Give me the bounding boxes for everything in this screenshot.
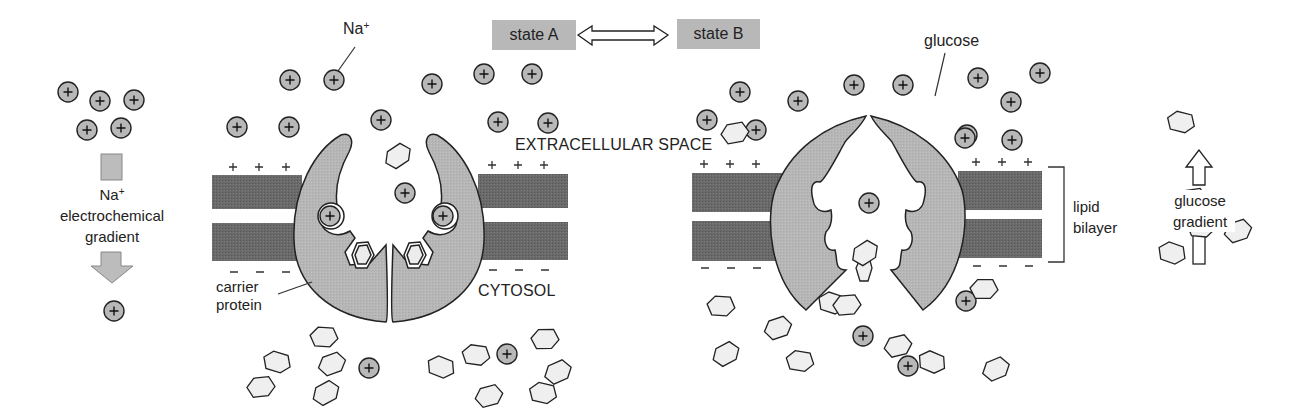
glucose-molecule-icon [882,334,913,359]
state-b-label: state B [694,25,744,42]
glucose-molecule-icon [260,348,293,377]
state-b-box: state B [677,19,760,49]
sodium-ion-icon [898,356,918,376]
sodium-ion-icon [77,120,97,140]
sodium-ion-icon [320,206,340,226]
carrier-left-half [770,116,866,310]
lipid-bilayer-bracket [1048,167,1064,262]
sodium-ion-icon [371,110,391,130]
sodium-ion-icon [730,82,750,102]
glucose-molecule-icon [709,339,743,369]
glucose-molecule-icon [247,377,276,398]
sodium-ion-icon [697,110,717,130]
sodium-ion-icon [1001,92,1021,112]
na-text: Na [343,20,363,37]
sodium-ion-icon [90,91,110,111]
sodium-ion-icon [538,113,558,133]
na-superscript: + [363,20,369,31]
sodium-ion-icon [844,75,864,95]
sodium-ion-icon [433,206,453,226]
cytosol-label: CYTOSOL [478,282,556,300]
glucose-molecule-icon [381,140,415,171]
sodium-ion-icon [497,344,517,364]
glucose-molecule-icon [706,294,737,318]
sodium-ion-icon [227,117,247,137]
sodium-ion-icon [395,183,415,203]
sodium-ion-icon [488,112,508,132]
glucose-gradient-label: glucose gradient [1165,190,1235,232]
sodium-ion-icon [280,70,300,90]
sodium-ion-icon [124,90,144,110]
state-a-label: state A [510,26,559,43]
glucose-molecule-icon [530,328,559,349]
glucose-molecule-icon [969,278,998,300]
na-label: Na+ [343,20,369,38]
glucose-molecule-icon [1155,238,1189,267]
sodium-ion-icon [1002,130,1022,150]
glucose-molecule-icon [541,358,574,386]
glucose-molecule-icon [473,384,504,409]
sodium-ion-icon [955,128,975,148]
carrier-left-half [294,134,388,322]
sodium-ion-icon [104,301,124,321]
lipid-bilayer-label: lipid bilayer [1073,196,1117,238]
glucose-molecule-icon [1165,108,1198,136]
sodium-ion-icon [1030,63,1050,83]
carrier-protein-label: carrier protein [216,278,262,314]
sodium-ion-icon [968,68,988,88]
sodium-ion-icon [788,91,808,111]
sodium-ion-icon [58,82,78,102]
sodium-ion-icon [853,326,873,346]
glucose-molecule-icon [784,348,816,374]
extracellular-space-label: EXTRACELLULAR SPACE [515,136,712,154]
sodium-ion-icon [746,120,766,140]
glucose-label: glucose [924,32,979,50]
sodium-ion-icon [522,64,542,84]
glucose-molecule-icon [424,352,458,382]
glucose-molecule-icon [915,347,949,378]
glucose-molecule-icon [848,237,882,268]
glucose-molecule-icon [309,325,339,348]
sodium-ion-icon [422,74,442,94]
glucose-molecule-icon [309,378,343,408]
na-electrochemical-gradient-label: Na+ electrochemical gradient [44,184,180,247]
sodium-ion-icon [893,75,913,95]
state-a-box: state A [492,20,576,50]
glucose-molecule-icon [762,315,794,342]
sodium-ion-icon [279,117,299,137]
sodium-ion-icon [111,118,131,138]
sodium-ion-icon [859,193,879,213]
lipid-bilayer-state-a [212,174,568,261]
glucose-molecule-icon [316,351,348,378]
glucose-molecule-icon [980,355,1013,383]
glucose-molecule-icon [720,122,750,145]
sodium-ion-icon [359,358,379,378]
carrier-right-half [871,116,965,310]
sodium-ion-icon [474,64,494,84]
state-transition-arrow [578,26,668,45]
sodium-ion-icon [324,70,344,90]
glucose-molecule-icon [460,342,492,367]
